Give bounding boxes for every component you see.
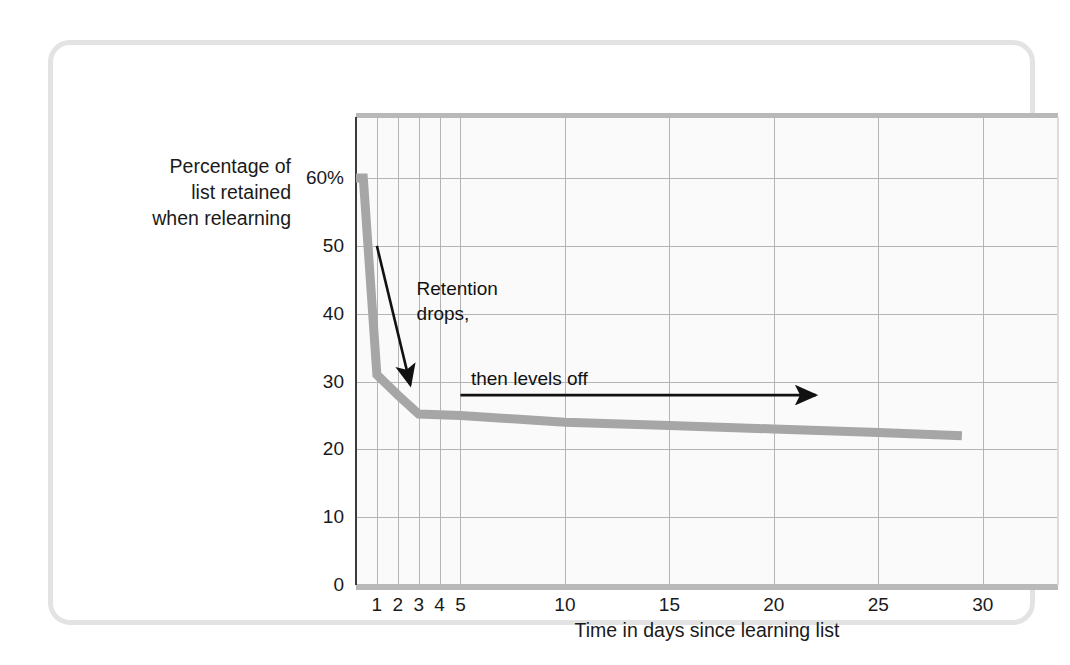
y-tick-label: 60% [284,167,344,189]
figure-frame: Percentage of list retained when relearn… [48,40,1035,625]
x-axis-title: Time in days since learning list [356,619,1058,642]
y-tick-label: 0 [284,574,344,596]
y-axis-title: Percentage of list retained when relearn… [141,153,291,231]
annotation-retention-drops: Retention drops, [417,276,498,326]
x-tick-label: 30 [953,594,1013,616]
x-tick-label: 20 [744,594,804,616]
x-tick-label: 25 [848,594,908,616]
x-tick-label: 5 [430,594,490,616]
y-tick-label: 40 [284,303,344,325]
x-tick-label: 15 [639,594,699,616]
y-tick-label: 20 [284,438,344,460]
y-tick-label: 30 [284,371,344,393]
plot-area: Retention drops, then levels off [356,117,1058,585]
x-tick-label: 10 [535,594,595,616]
annotation-then-levels-off: then levels off [471,366,588,391]
y-tick-label: 10 [284,506,344,528]
y-tick-label: 50 [284,235,344,257]
annotation-arrows [356,117,1058,585]
